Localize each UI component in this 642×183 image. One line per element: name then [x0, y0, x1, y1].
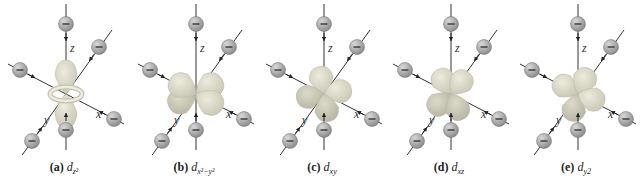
ligand-sphere: [89, 40, 106, 61]
ligand-sphere: [317, 17, 332, 42]
orbital-subscript: z²: [73, 167, 79, 176]
y-axis-label: y: [555, 113, 562, 127]
ligand-sphere: [537, 127, 554, 148]
panel-tag: (c): [307, 160, 320, 174]
orbital-diagram: z x y: [0, 0, 128, 155]
ligand-sphere: [398, 63, 421, 78]
orbital-panel-dz2: z x y (a)dz²: [0, 0, 128, 183]
orbital-panel-dxz: z x y (d)dxz: [385, 0, 513, 183]
ligand-sphere: [357, 111, 380, 126]
panel-caption: (a)dz²: [0, 160, 128, 176]
panel-caption: (e)dy2: [512, 160, 640, 176]
panel-caption: (d)dxz: [385, 160, 513, 176]
y-axis-label: y: [301, 113, 308, 127]
ligand-sphere: [155, 127, 172, 148]
ligand-sphere: [347, 40, 364, 61]
z-axis-label: z: [69, 41, 75, 55]
ligand-sphere: [571, 17, 586, 42]
z-axis-label: z: [454, 41, 460, 55]
ligand-sphere: [189, 17, 204, 42]
orbital-subscript: x²−y²: [197, 167, 214, 176]
orbital-panel-dyz: z x y (e)dy2: [512, 0, 640, 183]
ligand-sphere: [13, 63, 36, 78]
ligand-sphere: [474, 40, 491, 61]
panel-tag: (a): [50, 160, 64, 174]
orbital-diagram: z x y: [130, 0, 258, 155]
orbital-subscript: y2: [583, 167, 591, 176]
ligand-sphere: [25, 127, 42, 148]
orbital-subscript: xy: [330, 167, 337, 176]
orbital-diagram: z x y: [385, 0, 513, 155]
panel-tag: (e): [561, 160, 574, 174]
panel-tag: (d): [434, 160, 449, 174]
ligand-sphere: [219, 40, 236, 61]
ligand-sphere: [601, 40, 618, 61]
y-axis-label: y: [428, 113, 435, 127]
panel-caption: (c)dxy: [258, 160, 386, 176]
y-axis-label: y: [173, 113, 180, 127]
ligand-sphere: [525, 63, 548, 78]
z-axis-label: z: [327, 41, 333, 55]
z-axis-label: z: [581, 41, 587, 55]
ligand-sphere: [283, 127, 300, 148]
panel-tag: (b): [174, 160, 189, 174]
ligand-sphere: [410, 127, 427, 148]
ligand-sphere: [59, 17, 74, 42]
ligand-sphere: [99, 111, 122, 126]
ligand-sphere: [484, 111, 507, 126]
ligand-sphere: [611, 111, 634, 126]
y-axis-label: y: [43, 113, 50, 127]
ligand-sphere: [189, 113, 204, 138]
z-axis-label: z: [199, 41, 205, 55]
ligand-sphere: [271, 63, 294, 78]
ligand-sphere: [229, 111, 252, 126]
orbital-diagram: z x y: [512, 0, 640, 155]
ligand-sphere: [143, 63, 166, 78]
orbital-panel-dx2y2: z x y (b)dx²−y²: [130, 0, 258, 183]
panel-caption: (b)dx²−y²: [130, 160, 258, 176]
orbital-panel-dxy: z x y (c)dxy: [258, 0, 386, 183]
orbital-diagram: z x y: [258, 0, 386, 155]
orbital-subscript: xz: [458, 167, 465, 176]
ligand-sphere: [444, 17, 459, 42]
